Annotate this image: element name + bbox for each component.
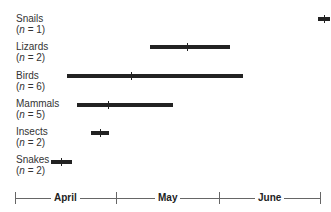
sample-size: (n = 2) [16, 52, 48, 63]
axis-boundary [320, 192, 321, 204]
median-tick [61, 158, 62, 166]
month-label: June [255, 192, 284, 204]
range-bar [67, 74, 243, 78]
sample-size: (n = 2) [16, 165, 49, 176]
category-name: Snakes [16, 154, 49, 165]
category-name: Lizards [16, 41, 48, 52]
range-bar [150, 45, 230, 49]
sample-size: (n = 6) [16, 81, 45, 92]
sample-size: (n = 2) [16, 137, 48, 148]
category-name: Mammals [16, 98, 59, 109]
month-label: April [51, 192, 80, 204]
category-name: Insects [16, 126, 48, 137]
category-label: Snails(n = 1) [16, 13, 45, 35]
category-name: Snails [16, 13, 45, 24]
category-label: Mammals(n = 5) [16, 98, 59, 120]
category-label: Insects(n = 2) [16, 126, 48, 148]
median-tick [324, 15, 325, 23]
sample-size: (n = 5) [16, 109, 59, 120]
category-label: Birds(n = 6) [16, 70, 45, 92]
median-tick [187, 43, 188, 51]
category-label: Lizards(n = 2) [16, 41, 48, 63]
axis-boundary [116, 192, 117, 204]
axis-boundary [219, 192, 220, 204]
month-axis: AprilMayJune [0, 192, 331, 204]
month-label: May [155, 192, 180, 204]
category-label: Snakes(n = 2) [16, 154, 49, 176]
median-tick [100, 129, 101, 137]
sample-size: (n = 1) [16, 24, 45, 35]
category-name: Birds [16, 70, 45, 81]
range-bar [77, 103, 173, 107]
axis-boundary [15, 192, 16, 204]
median-tick [131, 72, 132, 80]
median-tick [108, 101, 109, 109]
